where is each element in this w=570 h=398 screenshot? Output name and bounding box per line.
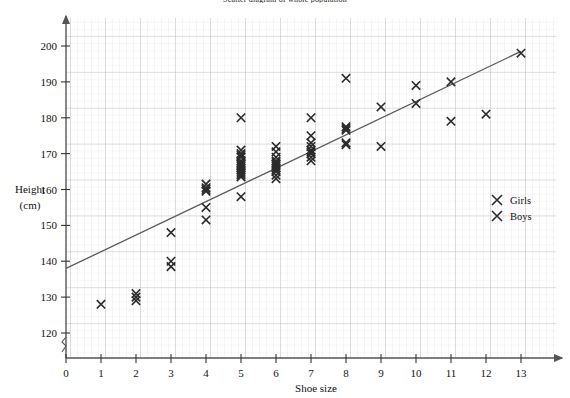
y-axis-title-line2: (cm)	[20, 199, 41, 212]
y-tick-label: 200	[41, 40, 58, 52]
y-axis	[62, 16, 66, 358]
y-tick-label: 140	[41, 255, 58, 267]
x-tick-label: 5	[238, 367, 244, 379]
plot-canvas: 120 130 140 150 160 170 180 190 200 0 1 …	[0, 0, 570, 398]
x-tick-label: 2	[133, 367, 139, 379]
x-tick-label: 4	[203, 367, 209, 379]
y-axis-title-line1: Height	[15, 183, 45, 195]
x-tick-label: 0	[63, 367, 69, 379]
x-tick-label: 11	[446, 367, 457, 379]
scatter-diagram-figure: Scatter diagram of whole population	[0, 0, 570, 398]
x-tick-label: 6	[273, 367, 279, 379]
legend-label-boys: Boys	[510, 211, 532, 222]
y-tick-label: 120	[41, 327, 58, 339]
x-tick-label: 10	[411, 367, 423, 379]
x-tick-label: 1	[98, 367, 104, 379]
grid-area	[66, 18, 556, 358]
x-tick-label: 12	[481, 367, 492, 379]
x-tick-label: 13	[516, 367, 528, 379]
x-tick-label: 9	[378, 367, 384, 379]
y-tick-label: 130	[41, 291, 58, 303]
y-tick-label: 190	[41, 76, 58, 88]
y-tick-label: 170	[41, 148, 58, 160]
y-tick-label: 150	[41, 219, 58, 231]
x-tick-label: 8	[343, 367, 349, 379]
legend-label-girls: Girls	[510, 195, 531, 206]
x-tick-label: 7	[308, 367, 314, 379]
x-axis-title: Shoe size	[295, 382, 337, 394]
x-tick-label: 3	[168, 367, 174, 379]
y-tick-label: 180	[41, 112, 58, 124]
